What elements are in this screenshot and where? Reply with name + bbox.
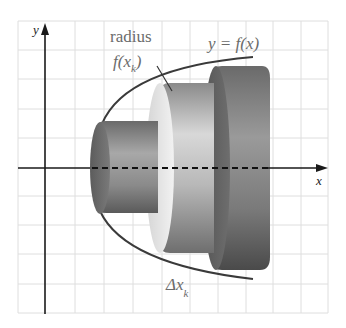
curve-label: y = f(x) <box>206 34 259 53</box>
y-axis-arrow-icon <box>41 23 49 35</box>
delta-x-label: Δxk <box>165 275 190 299</box>
disk-method-diagram: y x radius f(xk) y = f(x) Δxk <box>0 0 346 328</box>
x-axis-arrow-icon <box>316 164 328 172</box>
y-axis-label: y <box>31 22 39 37</box>
radius-expr: f(xk) <box>113 52 142 74</box>
radius-label: radius <box>110 27 152 46</box>
x-axis-label: x <box>315 173 322 188</box>
